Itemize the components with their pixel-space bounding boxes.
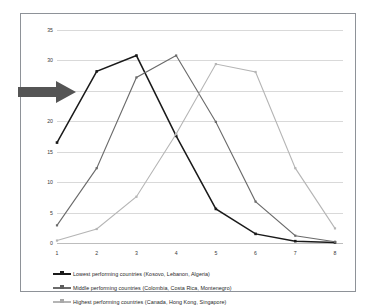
x-tick-label: 8 [325, 250, 345, 257]
series-marker [294, 235, 296, 237]
legend-marker-middle [51, 284, 73, 292]
series-line [57, 64, 335, 240]
series-marker [294, 167, 296, 169]
x-tick-label: 7 [285, 250, 305, 257]
series-marker [56, 224, 58, 226]
legend-marker-highest [51, 298, 73, 306]
x-tick-label: 3 [126, 250, 146, 257]
data-series-layer [39, 21, 339, 246]
series-marker [254, 233, 257, 236]
x-tick-label: 5 [206, 250, 226, 257]
right-arrow-icon [18, 81, 76, 103]
plot-area: 05101520253035 12345678 [39, 21, 339, 246]
x-tick-label: 1 [47, 250, 67, 257]
series-marker [95, 70, 98, 73]
series-marker [175, 133, 177, 135]
series-marker [175, 54, 177, 56]
series-marker [96, 228, 98, 230]
legend-item-middle[interactable]: Middle performing countries (Colombia, C… [51, 281, 351, 295]
chart-legend: Lowest performing countries (Kosovo, Leb… [51, 267, 351, 306]
chart-container: 05101520253035 12345678 Lowest performin… [20, 13, 356, 292]
series-marker [254, 71, 256, 73]
series-marker [215, 63, 217, 65]
series-marker [135, 196, 137, 198]
legend-marker-lowest [51, 270, 73, 278]
legend-label-middle: Middle performing countries (Colombia, C… [73, 285, 232, 291]
pointer-arrow-annotation [18, 81, 76, 103]
series-marker [135, 76, 137, 78]
series-line [57, 56, 335, 243]
series-marker [215, 121, 217, 123]
legend-item-lowest[interactable]: Lowest performing countries (Kosovo, Leb… [51, 267, 351, 281]
series-marker [294, 240, 297, 243]
series-marker [254, 201, 256, 203]
legend-label-lowest: Lowest performing countries (Kosovo, Leb… [73, 271, 210, 277]
series-line [57, 56, 335, 242]
legend-label-highest: Highest performing countries (Canada, Ho… [73, 299, 226, 305]
series-marker [334, 227, 336, 229]
series-marker [334, 241, 336, 243]
series-marker [56, 141, 59, 144]
series-marker [215, 208, 218, 211]
x-tick-label: 4 [166, 250, 186, 257]
x-tick-label: 6 [246, 250, 266, 257]
legend-item-highest[interactable]: Highest performing countries (Canada, Ho… [51, 295, 351, 306]
x-tick-label: 2 [87, 250, 107, 257]
series-marker [135, 54, 138, 57]
series-marker [56, 239, 58, 241]
series-marker [96, 167, 98, 169]
